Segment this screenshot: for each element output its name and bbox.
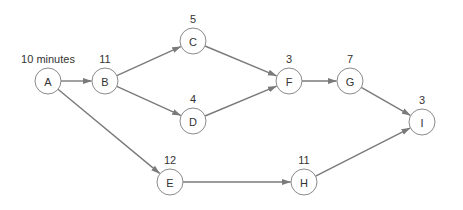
node-duration: 3 (419, 94, 425, 106)
diagram-canvas: A10 minutesB11C5D4E12F3G7H11I3 (0, 0, 463, 210)
node-d: D4 (180, 93, 206, 134)
node-b: B11 (92, 53, 118, 94)
node-g: G7 (337, 53, 363, 94)
node-h: H11 (291, 154, 317, 195)
node-label: I (420, 117, 423, 129)
node-label: F (286, 76, 293, 88)
node-f: F3 (276, 53, 302, 94)
edge-g-to-i (361, 87, 410, 115)
edge-h-to-i (316, 128, 410, 176)
edge-b-to-d (117, 86, 181, 115)
node-c: C5 (180, 13, 206, 54)
node-duration: 12 (164, 154, 176, 166)
node-label: E (166, 177, 173, 189)
node-duration: 4 (190, 93, 196, 105)
edges-layer (58, 46, 410, 182)
node-a: A10 minutes (21, 53, 75, 94)
edge-c-to-f (205, 46, 277, 76)
edge-d-to-f (205, 86, 277, 116)
node-duration: 3 (286, 53, 292, 65)
node-i: I3 (409, 94, 435, 135)
edge-b-to-c (117, 47, 181, 76)
node-duration: 10 minutes (21, 53, 75, 65)
node-label: C (189, 36, 197, 48)
node-duration: 5 (190, 13, 196, 25)
edge-a-to-e (58, 89, 160, 173)
node-duration: 11 (99, 53, 110, 65)
node-duration: 11 (298, 154, 309, 166)
node-label: G (346, 76, 355, 88)
node-e: E12 (157, 154, 183, 195)
node-label: H (300, 177, 308, 189)
activity-network-diagram: A10 minutesB11C5D4E12F3G7H11I3 (0, 0, 463, 210)
node-label: D (189, 116, 197, 128)
nodes-layer: A10 minutesB11C5D4E12F3G7H11I3 (21, 13, 435, 195)
node-label: A (44, 76, 52, 88)
node-duration: 7 (347, 53, 353, 65)
node-label: B (101, 76, 108, 88)
